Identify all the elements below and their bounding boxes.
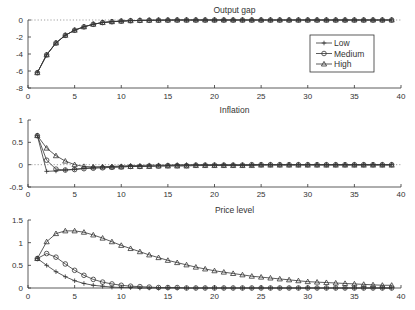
inflation-panel: Inflation051015202530354010.50-0.5 — [9, 105, 406, 199]
x-tick-label: 35 — [350, 190, 359, 199]
x-tick-label: 0 — [26, 92, 31, 101]
series-line — [37, 259, 391, 288]
x-tick-label: 40 — [397, 190, 406, 199]
series-line — [37, 231, 391, 285]
x-tick-label: 30 — [303, 92, 312, 101]
x-tick-label: 25 — [257, 292, 266, 301]
y-tick-label: 1 — [19, 116, 24, 125]
x-tick-label: 25 — [257, 92, 266, 101]
x-tick-label: 10 — [117, 92, 126, 101]
y-tick-label: 0.5 — [12, 138, 24, 147]
low-plus-marker — [82, 281, 87, 286]
series-high — [35, 133, 395, 169]
x-tick-label: 35 — [350, 92, 359, 101]
y-tick-label: -4 — [16, 50, 24, 59]
x-tick-label: 20 — [210, 92, 219, 101]
low-plus-marker — [54, 269, 59, 274]
y-tick-label: 0.5 — [12, 261, 24, 270]
x-tick-label: 10 — [117, 292, 126, 301]
y-tick-label: -8 — [16, 84, 24, 93]
x-tick-label: 0 — [26, 190, 31, 199]
series-high — [35, 228, 395, 287]
panel-title: Output gap — [213, 5, 255, 15]
legend-label: Low — [334, 38, 350, 48]
y-tick-label: -2 — [16, 33, 24, 42]
x-tick-label: 15 — [163, 92, 172, 101]
low-plus-marker — [63, 274, 68, 279]
low-plus-marker — [44, 169, 49, 174]
y-tick-label: 0 — [19, 284, 24, 293]
x-tick-label: 15 — [163, 190, 172, 199]
x-tick-label: 5 — [72, 292, 77, 301]
x-tick-label: 35 — [350, 292, 359, 301]
x-tick-label: 40 — [397, 92, 406, 101]
x-tick-label: 5 — [72, 92, 77, 101]
x-tick-label: 20 — [210, 190, 219, 199]
panel-title: Price level — [215, 205, 254, 215]
x-tick-label: 10 — [117, 190, 126, 199]
legend-label: High — [334, 59, 352, 69]
y-tick-label: 1.5 — [12, 216, 24, 225]
y-tick-label: 0 — [19, 16, 24, 25]
x-tick-label: 5 — [72, 190, 77, 199]
y-tick-label: 1 — [19, 239, 24, 248]
panel-title: Inflation — [220, 105, 250, 115]
legend-label: Medium — [334, 49, 364, 59]
x-tick-label: 25 — [257, 190, 266, 199]
low-plus-marker — [91, 283, 96, 288]
y-tick-label: -0.5 — [9, 183, 23, 192]
x-tick-label: 15 — [163, 292, 172, 301]
x-tick-label: 30 — [303, 190, 312, 199]
legend: LowMediumHigh — [310, 35, 374, 72]
y-tick-label: 0 — [19, 161, 24, 170]
figure: Output gap05101520253035400-2-4-6-8 Infl… — [0, 0, 415, 310]
low-plus-marker — [72, 278, 77, 283]
x-tick-label: 40 — [397, 292, 406, 301]
x-tick-label: 0 — [26, 292, 31, 301]
y-tick-label: -6 — [16, 67, 24, 76]
price-level-panel: Price level05101520253035401.510.50 — [12, 205, 406, 301]
x-tick-label: 20 — [210, 292, 219, 301]
x-tick-label: 30 — [303, 292, 312, 301]
